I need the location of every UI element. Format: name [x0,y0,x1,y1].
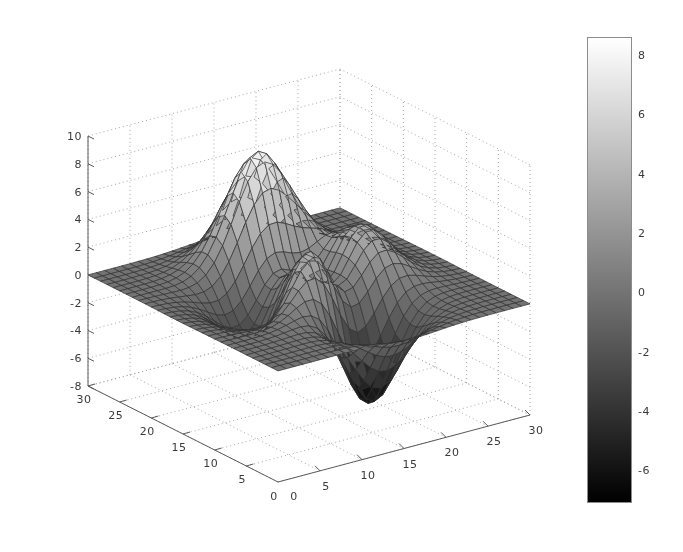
x-tick-label: 15 [403,457,418,470]
x-tick-label: 30 [529,424,544,437]
colorbar-tick-label: -2 [638,345,650,358]
x-tick-label: 5 [322,479,330,492]
figure-canvas: -8-6-4-20246810051015202530051015202530 … [0,0,683,552]
z-tick-label: 4 [75,213,83,226]
colorbar-tick-label: 6 [638,108,646,121]
z-tick-label: -6 [70,352,82,365]
y-tick-label: 25 [108,409,123,422]
y-tick-label: 15 [172,441,187,454]
colorbar-tick-label: 8 [638,48,646,61]
surface-plot-canvas [0,0,683,552]
colorbar-tick-label: 2 [638,226,646,239]
x-tick-label: 20 [445,446,460,459]
z-tick-label: 2 [75,241,83,254]
z-tick-label: 0 [75,268,83,281]
colorbar-tick-label: -4 [638,404,650,417]
x-tick-label: 25 [487,435,502,448]
x-tick-label: 0 [290,490,298,503]
colorbar-tick-label: -6 [638,464,650,477]
y-tick-label: 10 [203,457,218,470]
z-tick-label: 10 [67,130,82,143]
z-tick-label: 8 [75,157,83,170]
y-tick-label: 30 [77,393,92,406]
colorbar-tick-label: 4 [638,167,646,180]
x-tick-label: 10 [361,468,376,481]
colorbar-tick-label: 0 [638,286,646,299]
y-tick-label: 0 [270,490,278,503]
y-tick-label: 5 [239,473,247,486]
y-tick-label: 20 [140,425,155,438]
colorbar-gradient [588,38,632,503]
z-tick-label: -4 [70,324,82,337]
z-tick-label: 6 [75,185,83,198]
z-tick-label: -8 [70,380,82,393]
z-tick-label: -2 [70,296,82,309]
